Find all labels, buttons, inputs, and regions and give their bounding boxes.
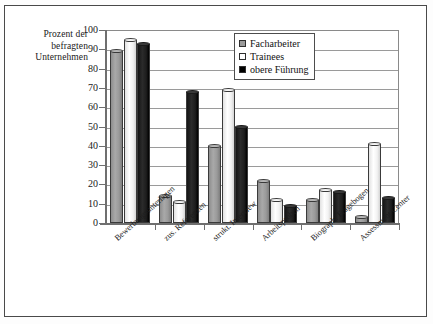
y-tick-100 xyxy=(99,30,106,31)
bar-body xyxy=(368,144,381,223)
x-tick-0 xyxy=(155,223,156,230)
y-tick-label-0: 0 xyxy=(72,218,98,228)
bar-cap xyxy=(382,196,395,200)
legend-item-0: Facharbeiter xyxy=(239,37,309,50)
y-tick-50 xyxy=(99,127,106,128)
y-tick-30 xyxy=(99,165,106,166)
x-tick-5 xyxy=(399,223,400,230)
y-tick-label-50: 50 xyxy=(72,122,98,132)
y-tick-70 xyxy=(99,88,106,89)
bar-body xyxy=(124,40,137,223)
bar-cap xyxy=(306,198,319,202)
y-tick-label-80: 80 xyxy=(72,64,98,74)
bar-chart-figure: Prozent der befragten Unternehmen Bewerb… xyxy=(0,0,433,324)
bar-cap xyxy=(173,200,186,204)
bar-body xyxy=(222,90,235,223)
x-axis xyxy=(100,223,400,225)
x-tick-2 xyxy=(253,223,254,230)
bar-cap xyxy=(208,144,221,148)
y-tick-20 xyxy=(99,184,106,185)
y-tick-label-40: 40 xyxy=(72,141,98,151)
bar-0-5 xyxy=(355,215,368,223)
legend-label: Facharbeiter xyxy=(250,38,300,49)
bar-0-4 xyxy=(306,198,319,223)
y-tick-90 xyxy=(99,49,106,50)
y-axis xyxy=(100,30,107,224)
y-tick-10 xyxy=(99,204,106,205)
white-swatch xyxy=(239,53,246,60)
bar-1-2 xyxy=(222,88,235,223)
y-tick-label-60: 60 xyxy=(72,102,98,112)
legend-item-2: obere Führung xyxy=(239,63,309,76)
bar-cap xyxy=(235,125,248,129)
legend-item-1: Trainees xyxy=(239,50,309,63)
bar-cap xyxy=(186,90,199,94)
x-tick-4 xyxy=(350,223,351,230)
y-tick-80 xyxy=(99,69,106,70)
bar-cap xyxy=(368,142,381,146)
bar-cap xyxy=(222,88,235,92)
bar-cap xyxy=(257,179,270,183)
bar-0-3 xyxy=(257,179,270,223)
y-tick-label-20: 20 xyxy=(72,179,98,189)
legend-label: Trainees xyxy=(250,51,284,62)
y-tick-40 xyxy=(99,146,106,147)
y-tick-60 xyxy=(99,107,106,108)
bar-1-0 xyxy=(124,38,137,223)
y-tick-label-100: 100 xyxy=(72,25,98,35)
bar-cap xyxy=(270,198,283,202)
black-swatch xyxy=(239,66,246,73)
y-tick-label-90: 90 xyxy=(72,44,98,54)
bar-body xyxy=(306,200,319,223)
legend-label: obere Führung xyxy=(250,64,309,75)
x-tick-3 xyxy=(301,223,302,230)
bar-1-5 xyxy=(368,142,381,223)
bar-body xyxy=(137,44,150,223)
y-tick-label-70: 70 xyxy=(72,83,98,93)
bar-0-0 xyxy=(110,49,123,223)
bar-body xyxy=(110,51,123,223)
x-tick-1 xyxy=(204,223,205,230)
y-tick-label-10: 10 xyxy=(72,199,98,209)
bar-0-2 xyxy=(208,144,221,223)
legend: FacharbeiterTraineesobere Führung xyxy=(234,33,315,80)
y-tick-label-30: 30 xyxy=(72,160,98,170)
bar-cap xyxy=(124,38,137,42)
gray-swatch xyxy=(239,40,246,47)
bar-body xyxy=(257,181,270,223)
bar-2-0 xyxy=(137,42,150,223)
bar-body xyxy=(208,146,221,223)
bar-cap xyxy=(137,42,150,46)
